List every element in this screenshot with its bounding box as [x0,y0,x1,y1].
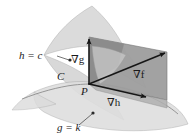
leader-dot-g-k [91,111,94,114]
figure-canvas: h = c g = k C P ∇g ∇f ∇h [0,0,195,137]
point-p-marker [88,83,90,85]
label-grad-f: ∇f [133,68,145,80]
label-grad-h: ∇h [107,96,121,108]
lagrange-multipliers-figure: h = c g = k C P ∇g ∇f ∇h [0,0,195,137]
label-surface-g: g = k [57,121,81,133]
label-curve-c: C [57,70,65,82]
label-surface-h: h = c [19,49,42,61]
label-point-p: P [80,85,88,97]
label-grad-g: ∇g [71,53,85,65]
leader-line-h-c [57,56,69,60]
